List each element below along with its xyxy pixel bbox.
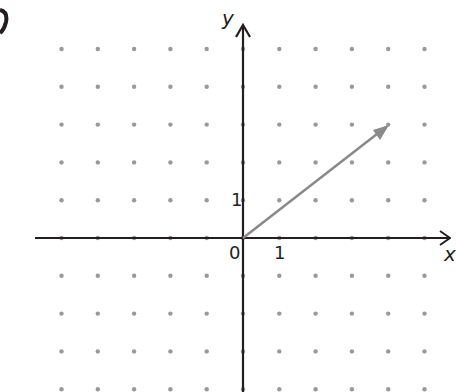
grid-dot — [59, 349, 63, 353]
grid-dot — [422, 160, 426, 164]
grid-dot — [96, 387, 100, 391]
grid-dot — [422, 349, 426, 353]
grid-dot — [422, 387, 426, 391]
grid-dot — [59, 160, 63, 164]
grid-dot — [386, 274, 390, 278]
grid-dot — [277, 47, 281, 51]
grid-dot — [59, 311, 63, 315]
grid-dot — [132, 198, 136, 202]
grid-dot — [386, 160, 390, 164]
grid-dot — [313, 198, 317, 202]
grid-dot — [422, 122, 426, 126]
y-axis-label: y — [222, 8, 234, 28]
y-tick-label-1: 1 — [231, 191, 242, 209]
grid-dot — [277, 349, 281, 353]
origin-label: 0 — [229, 244, 240, 262]
grid-dot — [422, 274, 426, 278]
grid-dot — [168, 85, 172, 89]
grid-dot — [386, 198, 390, 202]
grid-dot — [205, 122, 209, 126]
grid-dot — [313, 122, 317, 126]
grid-dot — [96, 122, 100, 126]
grid-dot — [313, 311, 317, 315]
grid-dot — [132, 160, 136, 164]
grid-dot — [168, 47, 172, 51]
grid-dot — [350, 311, 354, 315]
grid-dot — [386, 47, 390, 51]
grid-dot — [350, 387, 354, 391]
x-axis-label: x — [444, 244, 456, 264]
grid-dot — [205, 274, 209, 278]
grid-dot — [422, 311, 426, 315]
grid-dot — [168, 311, 172, 315]
grid-dot — [386, 387, 390, 391]
grid-dot — [386, 349, 390, 353]
grid-dot — [313, 47, 317, 51]
grid-dot — [277, 311, 281, 315]
grid-dot — [277, 122, 281, 126]
grid-dot — [205, 85, 209, 89]
grid-dot — [132, 349, 136, 353]
grid-dot — [132, 311, 136, 315]
grid-dot — [96, 85, 100, 89]
grid-dot — [422, 47, 426, 51]
grid-dot — [277, 274, 281, 278]
grid-dot — [386, 311, 390, 315]
grid-dot — [313, 387, 317, 391]
grid-dot — [205, 47, 209, 51]
grid-dot — [168, 198, 172, 202]
grid-dot — [96, 198, 100, 202]
grid-dot — [96, 47, 100, 51]
grid-dot — [313, 349, 317, 353]
grid-dot — [96, 160, 100, 164]
grid-dot — [350, 47, 354, 51]
grid-dot — [350, 349, 354, 353]
vector-line — [243, 127, 386, 238]
grid-dot — [132, 122, 136, 126]
grid-dot — [59, 198, 63, 202]
grid-dot — [277, 198, 281, 202]
grid-dot — [132, 47, 136, 51]
grid-dot — [59, 47, 63, 51]
grid-dot — [350, 122, 354, 126]
grid-dot — [132, 274, 136, 278]
grid-dot — [205, 198, 209, 202]
grid-dot — [168, 122, 172, 126]
grid-dot — [168, 387, 172, 391]
grid-dot — [422, 85, 426, 89]
grid-dot — [96, 274, 100, 278]
vector-arrowhead — [373, 125, 389, 140]
grid-dot — [168, 349, 172, 353]
grid-dot — [350, 85, 354, 89]
grid-dot — [205, 349, 209, 353]
grid-dot — [277, 387, 281, 391]
grid-dot — [277, 160, 281, 164]
grid-dot — [350, 274, 354, 278]
grid-dot — [422, 198, 426, 202]
grid-dot — [59, 122, 63, 126]
grid-dot — [350, 160, 354, 164]
grid-dot — [313, 274, 317, 278]
grid-dot — [277, 85, 281, 89]
x-tick-label-1: 1 — [274, 244, 285, 262]
grid-dot — [313, 85, 317, 89]
part-label-glyph — [0, 10, 6, 33]
grid-dot — [168, 274, 172, 278]
grid-dot — [132, 85, 136, 89]
grid-dot — [59, 85, 63, 89]
grid-dot — [205, 160, 209, 164]
grid-dot — [132, 387, 136, 391]
grid-dot — [59, 274, 63, 278]
grid-dot — [313, 160, 317, 164]
grid-dot — [96, 349, 100, 353]
grid-dot — [96, 311, 100, 315]
grid-dot — [168, 160, 172, 164]
grid-dot — [205, 387, 209, 391]
grid-dot — [59, 387, 63, 391]
grid-dot — [386, 85, 390, 89]
grid-dot — [350, 198, 354, 202]
grid-dot — [205, 311, 209, 315]
